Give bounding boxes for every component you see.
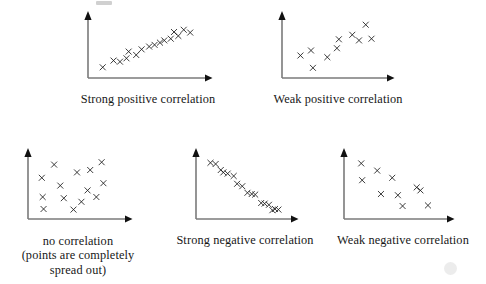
caption-strong-negative: Strong negative correlation [155,233,335,247]
panel-weak-positive [272,8,400,88]
panel-strong-negative [186,145,304,229]
correlation-figure: Strong positive correlation Weak positiv… [0,0,486,284]
scan-artifact-top [96,1,112,5]
caption-strong-positive: Strong positive correlation [48,92,248,106]
caption-line: (points are completely [0,248,156,262]
scan-artifact-corner [444,262,457,275]
caption-line: no correlation [0,234,156,248]
panel-no-correlation [18,145,138,229]
caption-weak-negative: Weak negative correlation [320,233,486,247]
scatter-plot-no-correlation [18,145,138,229]
caption-no-correlation: no correlation (points are completely sp… [0,234,156,277]
caption-line: Strong positive correlation [48,92,248,106]
panel-strong-positive [78,8,218,88]
caption-weak-positive: Weak positive correlation [243,92,433,106]
scatter-plot-strong-positive [78,8,218,88]
scatter-plot-weak-negative [334,145,460,229]
scatter-plot-weak-positive [272,8,400,88]
caption-line: Weak negative correlation [320,233,486,247]
scatter-plot-strong-negative [186,145,304,229]
caption-line: Strong negative correlation [155,233,335,247]
caption-line: spread out) [0,263,156,277]
caption-line: Weak positive correlation [243,92,433,106]
panel-weak-negative [334,145,460,229]
